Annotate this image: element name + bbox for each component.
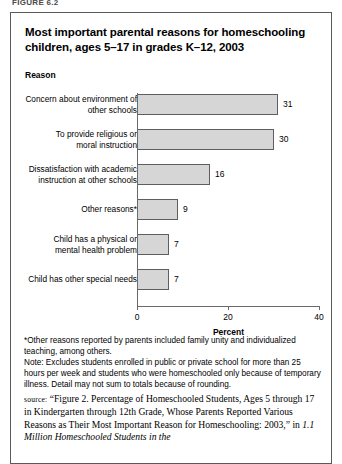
bar-rect[interactable] bbox=[137, 164, 210, 185]
bar-rect[interactable] bbox=[137, 129, 274, 150]
bar-row: Child has other special needs 7 bbox=[11, 268, 332, 302]
y-axis-title: Reason bbox=[25, 70, 56, 80]
bar-label-line: Child has other special needs bbox=[19, 274, 137, 285]
footnote-text: *Other reasons reported by parents inclu… bbox=[24, 335, 322, 357]
bar-row: Other reasons* 9 bbox=[11, 198, 332, 232]
bar-value-label: 31 bbox=[283, 94, 292, 115]
bar-label: Child has other special needs bbox=[19, 274, 137, 285]
bar-label-line: instruction at other schools bbox=[19, 175, 137, 186]
bar-label-line: To provide religious or bbox=[19, 129, 137, 140]
notes-block: *Other reasons reported by parents inclu… bbox=[24, 335, 322, 390]
bar-value-label: 7 bbox=[174, 234, 179, 255]
source-text: “Figure 2. Percentage of Homeschooled St… bbox=[24, 393, 314, 430]
source-citation: source: “Figure 2. Percentage of Homesch… bbox=[24, 393, 324, 444]
bar-row: Dissatisfaction with academic instructio… bbox=[11, 163, 332, 197]
note-text: Note: Excludes students enrolled in publ… bbox=[24, 357, 322, 390]
bar-row: Child has a physical or mental health pr… bbox=[11, 233, 332, 267]
bar-label: To provide religious or moral instructio… bbox=[19, 129, 137, 150]
x-axis-tick-label: 20 bbox=[223, 312, 232, 322]
figure-frame: Most important parental reasons for home… bbox=[10, 12, 332, 464]
bar-value-label: 7 bbox=[174, 269, 179, 290]
bar-rect[interactable] bbox=[137, 94, 278, 115]
bar-label: Concern about environment of other schoo… bbox=[19, 94, 137, 115]
figure-number-label: FIGURE 6.2 bbox=[12, 0, 59, 7]
bar-label-line: moral instruction bbox=[19, 140, 137, 151]
bar-label-line: Child has a physical or bbox=[19, 234, 137, 245]
bar-label-line: Concern about environment of bbox=[19, 94, 137, 105]
bar-rect[interactable] bbox=[137, 269, 169, 290]
bar-rect[interactable] bbox=[137, 234, 169, 255]
x-axis-tick bbox=[319, 306, 320, 310]
bar-row: To provide religious or moral instructio… bbox=[11, 128, 332, 162]
x-axis-tick-label: 0 bbox=[135, 312, 140, 322]
x-axis-tick-label: 40 bbox=[314, 312, 323, 322]
source-label: source: bbox=[24, 395, 47, 404]
bar-label-line: Other reasons* bbox=[19, 204, 137, 215]
figure-title: Most important parental reasons for home… bbox=[25, 25, 315, 55]
bar-value-label: 16 bbox=[215, 164, 224, 185]
bar-label: Child has a physical or mental health pr… bbox=[19, 234, 137, 255]
bar-value-label: 9 bbox=[183, 199, 188, 220]
y-axis-line bbox=[137, 93, 138, 307]
bar-label: Other reasons* bbox=[19, 204, 137, 215]
bar-label-line: mental health problem bbox=[19, 245, 137, 256]
bar-value-label: 30 bbox=[279, 129, 288, 150]
x-axis-tick bbox=[137, 306, 138, 310]
x-axis-tick bbox=[228, 306, 229, 310]
bar-row: Concern about environment of other schoo… bbox=[11, 93, 332, 127]
bar-rect[interactable] bbox=[137, 199, 178, 220]
bar-label-line: other schools bbox=[19, 105, 137, 116]
chart-plot-area: Concern about environment of other schoo… bbox=[11, 93, 332, 308]
bar-label-line: Dissatisfaction with academic bbox=[19, 164, 137, 175]
bar-label: Dissatisfaction with academic instructio… bbox=[19, 164, 137, 185]
